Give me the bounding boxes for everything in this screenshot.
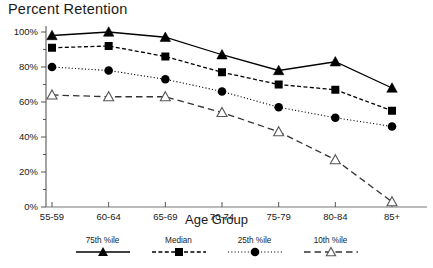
legend-marker [250, 248, 259, 257]
series-marker [104, 66, 113, 75]
legend-swatch [72, 246, 134, 258]
legend-item[interactable]: 75th %ile [72, 235, 134, 258]
series-marker [274, 127, 284, 136]
legend-item[interactable]: 25th %ile [224, 235, 286, 258]
series-marker [274, 103, 283, 112]
legend-swatch [148, 246, 210, 258]
series-marker [331, 113, 340, 122]
series-marker [331, 86, 339, 94]
series-marker [218, 87, 227, 96]
series-marker [388, 107, 396, 115]
legend-label: 75th %ile [86, 235, 120, 246]
series-marker [48, 63, 57, 72]
legend-item[interactable]: Median [148, 235, 210, 258]
series-marker [330, 155, 340, 164]
legend-marker [175, 248, 183, 256]
legend-label: Median [165, 235, 192, 246]
series-marker [387, 197, 397, 206]
plot-area [0, 0, 433, 268]
retention-chart: Percent Retention 0%20%40%60%80%100% 55-… [0, 0, 433, 268]
series-marker [105, 42, 113, 50]
series-marker [48, 44, 56, 52]
series-marker [103, 27, 113, 36]
series-marker [161, 53, 169, 61]
series-marker [388, 122, 397, 131]
series-marker [218, 68, 226, 76]
series-line [52, 32, 392, 88]
series-marker [387, 83, 397, 92]
legend-label: 25th %ile [238, 235, 272, 246]
chart-legend: 75th %ileMedian25th %ile10th %ile [0, 235, 433, 258]
series-marker [275, 81, 283, 89]
legend-swatch [224, 246, 286, 258]
series-marker [161, 75, 170, 84]
x-axis-title: Age Group [0, 212, 433, 227]
legend-item[interactable]: 10th %ile [300, 235, 362, 258]
legend-swatch [300, 246, 362, 258]
series-marker [330, 57, 340, 66]
legend-label: 10th %ile [314, 235, 348, 246]
